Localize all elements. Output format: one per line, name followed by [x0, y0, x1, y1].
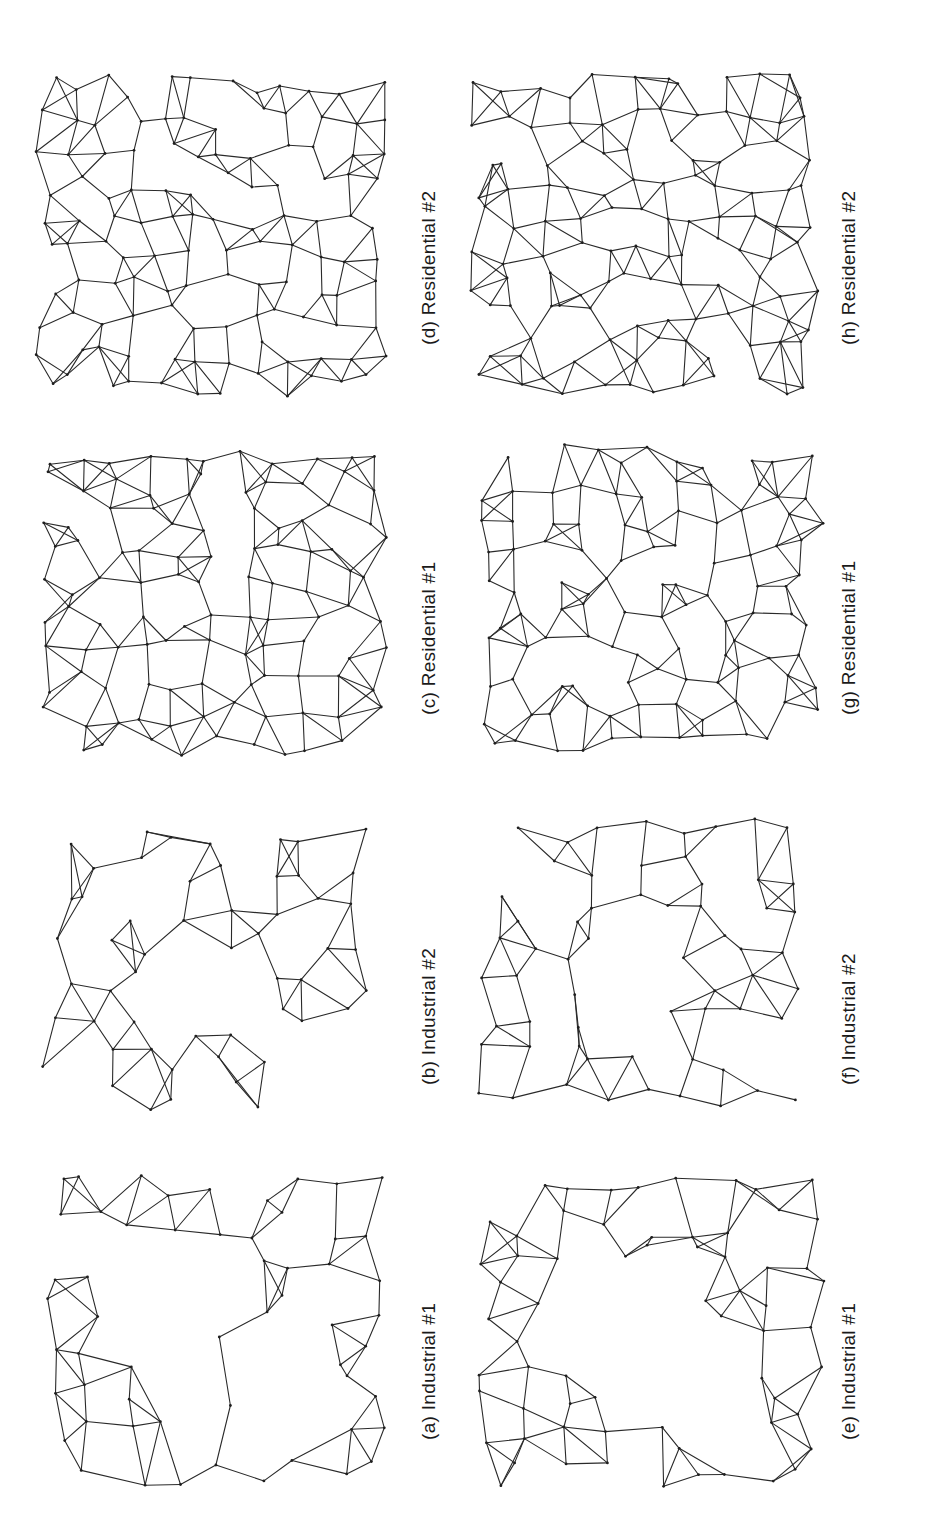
network-node	[749, 116, 752, 119]
network-edge	[46, 646, 86, 650]
network-node	[262, 644, 265, 647]
network-edge	[115, 283, 133, 315]
network-edge	[251, 685, 265, 717]
network-node	[202, 715, 205, 718]
network-edge	[123, 256, 154, 258]
network-edge	[317, 459, 344, 472]
network-edge	[106, 647, 119, 688]
network-edge	[662, 1427, 663, 1486]
network-edge	[514, 541, 546, 549]
network-edge	[376, 328, 386, 356]
network-node	[632, 178, 635, 181]
network-edge	[249, 549, 255, 577]
network-edge	[517, 976, 530, 1022]
network-edge	[64, 1177, 79, 1179]
network-node	[691, 1058, 694, 1061]
network-node	[373, 489, 376, 492]
network-node	[478, 373, 481, 376]
network-edge	[46, 646, 82, 672]
network-node	[537, 1302, 540, 1305]
network-node	[271, 582, 274, 585]
network-node	[140, 856, 143, 859]
network-edge	[139, 551, 178, 558]
network-edge	[202, 640, 210, 684]
network-node	[604, 384, 607, 387]
network-edge	[766, 1268, 767, 1306]
network-node	[351, 456, 354, 459]
network-node	[153, 254, 156, 257]
network-node	[54, 1016, 57, 1019]
network-edge	[500, 897, 502, 938]
network-edge	[736, 668, 739, 701]
network-node	[127, 355, 130, 358]
network-edge	[752, 193, 756, 216]
network-node	[701, 467, 704, 470]
network-edge	[287, 376, 311, 396]
network-edge	[339, 659, 350, 677]
network-node	[724, 654, 727, 657]
network-node	[383, 119, 386, 122]
network-node	[470, 289, 473, 292]
network-edge	[482, 521, 513, 522]
network-node	[297, 675, 300, 678]
network-edge	[799, 625, 807, 655]
network-edge	[727, 77, 750, 117]
network-edge	[115, 258, 123, 284]
network-edge	[811, 1327, 822, 1367]
network-edge	[479, 1093, 513, 1098]
network-node	[704, 1299, 707, 1302]
network-edge	[718, 238, 740, 250]
network-node	[544, 1184, 547, 1187]
network-node	[675, 460, 678, 463]
network-edge	[118, 617, 143, 647]
network-node	[350, 358, 353, 361]
network-edge	[322, 295, 337, 325]
network-node	[597, 448, 600, 451]
network-node	[623, 611, 626, 614]
network-edge	[57, 1350, 85, 1385]
network-node	[565, 1374, 568, 1377]
network-edge	[564, 1427, 566, 1464]
network-edge	[170, 684, 202, 690]
network-edge	[812, 1180, 817, 1219]
network-edge	[799, 540, 801, 575]
network-edge	[100, 624, 118, 647]
network-edge	[332, 1325, 340, 1365]
network-edge	[175, 1190, 210, 1231]
network-node	[495, 1025, 498, 1028]
network-edge	[76, 90, 77, 121]
network-node	[615, 493, 618, 496]
network-node	[810, 1448, 813, 1451]
network-edge	[246, 655, 265, 676]
network-edge	[592, 828, 597, 876]
network-node	[44, 645, 47, 648]
network-node	[132, 1425, 135, 1428]
network-edge	[273, 583, 307, 591]
network-edge	[195, 362, 220, 394]
network-edge	[636, 246, 669, 257]
network-node	[650, 1236, 653, 1239]
network-edge	[105, 150, 134, 153]
network-edge	[531, 123, 570, 128]
network-edge	[597, 821, 646, 827]
network-node	[92, 867, 95, 870]
network-node	[347, 604, 350, 607]
network-node	[245, 491, 248, 494]
network-edge	[198, 157, 228, 173]
network-node	[816, 1218, 819, 1221]
network-node	[506, 277, 509, 280]
network-edge	[203, 451, 240, 461]
network-edge	[625, 497, 642, 525]
network-edge	[174, 144, 198, 157]
network-edge	[788, 676, 816, 688]
network-edge	[609, 273, 624, 281]
network-edge	[718, 217, 720, 238]
network-node	[339, 1363, 342, 1366]
network-node	[81, 349, 84, 352]
network-edge	[332, 1325, 366, 1346]
network-edge	[753, 953, 783, 975]
network-edge	[36, 120, 77, 151]
network-edge	[268, 617, 319, 620]
network-edge	[701, 884, 702, 906]
network-node	[512, 227, 515, 230]
